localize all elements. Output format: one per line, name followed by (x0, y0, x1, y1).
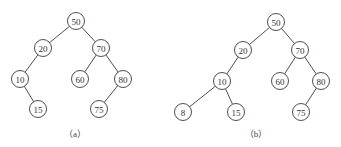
captions-layer: （a）（b） (64, 129, 267, 139)
node-label: 15 (34, 105, 44, 115)
tree-node: 75 (293, 104, 310, 121)
node-label: 60 (76, 75, 86, 85)
tree-node: 10 (12, 71, 29, 88)
tree-node: 8 (175, 104, 192, 121)
tree-node: 50 (268, 14, 285, 31)
edge-70-60 (85, 55, 96, 72)
tree-node: 75 (91, 101, 108, 118)
tree-a-edges (24, 26, 118, 102)
node-label: 80 (317, 77, 327, 87)
tree-node: 20 (235, 42, 252, 59)
tree-node: 10 (214, 73, 231, 90)
tree-node: 70 (93, 40, 110, 57)
edge-10-8 (190, 86, 216, 106)
edges-layer (24, 26, 316, 106)
node-label: 15 (232, 108, 242, 118)
edge-50-20 (50, 26, 70, 42)
tree-node: 80 (313, 73, 330, 90)
tree-node: 70 (292, 42, 309, 59)
tree-b-caption: （b） (245, 129, 268, 139)
edge-10-15 (225, 89, 232, 105)
tree-node: 15 (228, 104, 245, 121)
binary-search-tree-diagram: 502070106080157550207010608081575 （a）（b） (0, 0, 341, 147)
node-label: 75 (95, 105, 105, 115)
edge-50-70 (282, 28, 295, 43)
edge-20-10 (25, 55, 38, 72)
edge-50-20 (249, 27, 269, 44)
node-label: 10 (218, 77, 228, 87)
node-label: 20 (239, 46, 249, 56)
tree-node: 20 (35, 40, 52, 57)
node-label: 10 (16, 75, 26, 85)
nodes-layer: 502070106080157550207010608081575 (12, 13, 330, 121)
node-label: 8 (181, 108, 186, 118)
edge-20-10 (227, 57, 238, 74)
tree-node: 15 (30, 101, 47, 118)
node-label: 80 (119, 75, 129, 85)
edge-70-60 (285, 57, 296, 74)
node-label: 70 (97, 44, 107, 54)
edge-80-75 (306, 88, 317, 105)
edge-70-80 (305, 57, 316, 74)
tree-a-caption: （a） (64, 129, 86, 139)
tree-node: 60 (272, 73, 289, 90)
edge-10-15 (24, 86, 33, 101)
node-label: 75 (297, 108, 307, 118)
edge-70-80 (106, 55, 118, 72)
tree-node: 50 (68, 13, 85, 30)
node-label: 70 (296, 46, 306, 56)
tree-node: 60 (72, 71, 89, 88)
node-label: 50 (72, 17, 82, 27)
tree-node: 80 (115, 71, 132, 88)
node-label: 50 (272, 18, 282, 28)
edge-80-75 (104, 86, 117, 103)
node-label: 60 (276, 77, 286, 87)
node-label: 20 (39, 44, 49, 54)
tree-b-edges (190, 27, 317, 106)
edge-50-70 (82, 27, 95, 42)
